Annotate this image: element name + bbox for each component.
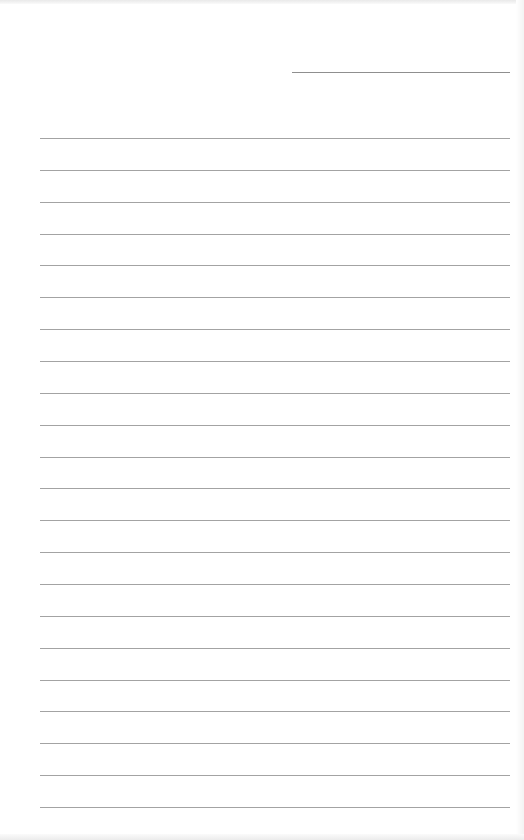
ruled-line xyxy=(40,680,510,681)
ruled-line xyxy=(40,807,510,808)
ruled-line xyxy=(40,297,510,298)
ruled-line xyxy=(40,329,510,330)
ruled-line xyxy=(40,425,510,426)
bottom-edge-shadow xyxy=(0,834,524,840)
ruled-line xyxy=(40,648,510,649)
ruled-line xyxy=(40,711,510,712)
ruled-line xyxy=(40,457,510,458)
ruled-line xyxy=(40,743,510,744)
ruled-line xyxy=(40,616,510,617)
ruled-line xyxy=(40,552,510,553)
ruled-line xyxy=(40,393,510,394)
ruled-line xyxy=(40,265,510,266)
ruled-line xyxy=(40,775,510,776)
ruled-line xyxy=(40,138,510,139)
ruled-line xyxy=(40,234,510,235)
ruled-line xyxy=(40,202,510,203)
ruled-line xyxy=(40,584,510,585)
ruled-line xyxy=(40,488,510,489)
ruled-line xyxy=(40,170,510,171)
ruled-line xyxy=(40,361,510,362)
ruled-line xyxy=(40,520,510,521)
ruled-lines xyxy=(0,0,524,840)
